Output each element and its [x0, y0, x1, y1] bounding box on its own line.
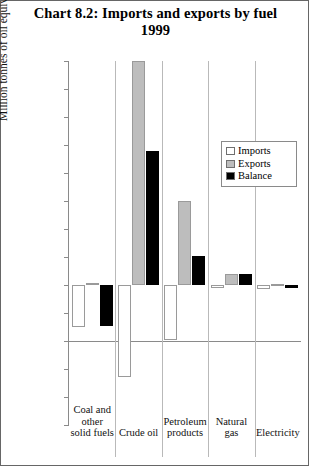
legend-swatch-imports: [226, 147, 235, 155]
x-category-label-line: Coal and: [69, 404, 115, 416]
x-category-label-line: Petroleum: [162, 416, 208, 428]
legend-label: Exports: [238, 158, 271, 171]
x-category-label: Naturalgas: [208, 416, 254, 439]
legend-label: Imports: [238, 145, 271, 158]
x-category-label-line: solid fuels: [69, 427, 115, 439]
legend-item: Exports: [226, 158, 292, 171]
x-category-label: Crude oil: [115, 427, 161, 439]
x-category-label-line: other: [69, 416, 115, 428]
chart-legend: ImportsExportsBalance: [221, 141, 297, 187]
category-separator: [162, 61, 163, 457]
chart-title-line-1: Chart 8.2: Imports and exports by fuel: [9, 5, 302, 22]
x-category-label-line: products: [162, 427, 208, 439]
bar-imports: [72, 285, 85, 327]
x-category-label-line: gas: [208, 427, 254, 439]
x-category-label-line: Electricity: [255, 427, 301, 439]
y-axis-title: Million tonnes of oil equivalent: [0, 0, 9, 121]
bar-imports: [211, 285, 224, 288]
bar-exports: [271, 284, 284, 286]
bar-exports: [86, 283, 99, 285]
category-separator: [208, 61, 209, 457]
legend-swatch-balance: [226, 172, 235, 180]
x-category-label: Electricity: [255, 427, 301, 439]
bar-imports: [118, 285, 131, 377]
bar-balance: [285, 285, 298, 288]
chart-title: Chart 8.2: Imports and exports by fuel 1…: [9, 5, 302, 39]
legend-item: Imports: [226, 145, 292, 158]
bar-balance: [146, 151, 159, 285]
category-separator: [115, 61, 116, 457]
chart-figure: Chart 8.2: Imports and exports by fuel 1…: [0, 0, 309, 466]
chart-title-line-2: 1999: [9, 22, 302, 39]
bar-exports: [178, 201, 191, 285]
bar-group: [69, 61, 115, 425]
bar-balance: [100, 285, 113, 326]
bar-exports: [132, 61, 145, 285]
x-category-label-line: Natural: [208, 416, 254, 428]
bar-balance: [239, 274, 252, 285]
x-category-label: Petroleumproducts: [162, 416, 208, 439]
bar-group: [162, 61, 208, 425]
legend-item: Balance: [226, 170, 292, 183]
bar-group: [255, 61, 301, 425]
x-category-label-line: Crude oil: [115, 427, 161, 439]
bar-exports: [225, 274, 238, 285]
bar-imports: [257, 285, 270, 289]
category-separator: [255, 61, 256, 457]
x-category-label: Coal andothersolid fuels: [69, 404, 115, 439]
bar-group: [208, 61, 254, 425]
bar-imports: [164, 285, 177, 340]
plot-area: 80706050403020100-10-20-30-40-50: [69, 61, 301, 425]
bar-group: [115, 61, 161, 425]
legend-swatch-exports: [226, 160, 235, 168]
bar-balance: [192, 256, 205, 285]
legend-label: Balance: [238, 170, 272, 183]
